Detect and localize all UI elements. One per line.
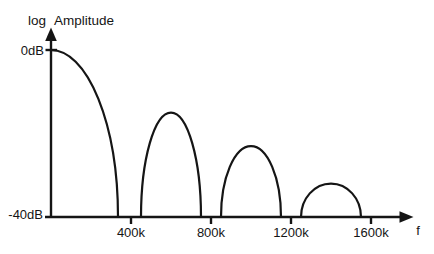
y-axis-title: log Amplitude <box>28 13 114 28</box>
x-axis-ticks: 400k800k1200k1600k <box>117 217 389 240</box>
x-tick-label-1200k: 1200k <box>273 225 309 240</box>
x-tick-label-800k: 800k <box>197 225 226 240</box>
spectrum-lobe-3 <box>221 146 281 217</box>
spectrum-lobe-1 <box>51 50 118 217</box>
y-tick-label-minus40dB: -40dB <box>8 207 43 222</box>
spectrum-lobe-4 <box>301 184 361 217</box>
y-tick-label-0dB: 0dB <box>21 43 44 58</box>
x-tick-label-400k: 400k <box>117 225 146 240</box>
x-axis-arrowhead <box>400 211 414 222</box>
x-tick-label-1600k: 1600k <box>353 225 389 240</box>
spectrum-lobes <box>51 50 361 217</box>
y-axis-arrowhead <box>45 28 57 42</box>
x-axis-title: f <box>416 223 420 238</box>
spectrum-chart: 400k800k1200k1600k log Amplitude 0dB -40… <box>0 0 434 254</box>
sinc-spectrum-figure: 400k800k1200k1600k log Amplitude 0dB -40… <box>0 0 434 254</box>
spectrum-lobe-2 <box>141 113 201 217</box>
